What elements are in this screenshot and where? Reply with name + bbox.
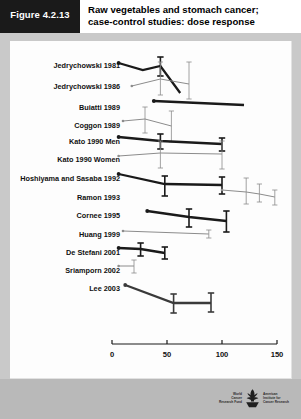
wcrf-line3: Research Fund xyxy=(212,400,242,404)
series-sriamporn-2002 xyxy=(117,260,136,273)
plot-area: Jedrychowski 1981Jedrychowski 1986Buiatt… xyxy=(10,41,301,388)
study-label: Hoshiyama and Sasaba 1992 xyxy=(20,174,120,183)
page-title-line2: case-control studies: dose response xyxy=(88,16,296,28)
study-label: Jedrychowski 1986 xyxy=(53,82,120,91)
study-label: Kato 1990 Men xyxy=(69,137,120,146)
series-coggon-1989 xyxy=(122,107,174,142)
series-ramon-1993 xyxy=(221,178,278,205)
series-cornee-1995 xyxy=(145,209,229,232)
study-label: Kato 1990 Women xyxy=(57,155,120,164)
study-label: Jedrychowski 1981 xyxy=(53,61,120,70)
study-label: Coggon 1989 xyxy=(74,121,120,130)
study-label: Ramon 1993 xyxy=(77,193,120,202)
figure-page: Figure 4.2.13 Raw vegetables and stomach… xyxy=(0,0,301,419)
series-huang-1999 xyxy=(122,230,212,238)
study-label: Lee 2003 xyxy=(89,284,120,293)
figure-footer: World Cancer Research Fund American Inst… xyxy=(0,379,301,419)
figure-number-label: Figure 4.2.13 xyxy=(0,9,80,20)
wcrf-aicr-globe-logo xyxy=(244,388,261,408)
series-de-stefani-2001 xyxy=(117,243,168,259)
study-label-column: Jedrychowski 1981Jedrychowski 1986Buiatt… xyxy=(10,41,120,388)
study-label: Sriamporn 2002 xyxy=(65,266,120,275)
wcrf-logo-text: World Cancer Research Fund xyxy=(212,392,242,404)
series-kato-1990-men xyxy=(117,134,226,151)
page-title-line1: Raw vegetables and stomach cancer; xyxy=(88,4,296,16)
organisation-logos: World Cancer Research Fund American Inst… xyxy=(212,387,293,409)
study-label: Cornee 1995 xyxy=(77,211,120,220)
page-title: Raw vegetables and stomach cancer; case-… xyxy=(88,4,296,28)
chart-panel: Jedrychowski 1981Jedrychowski 1986Buiatt… xyxy=(10,41,292,379)
study-label: Buiatti 1989 xyxy=(79,103,120,112)
series-lee-2003 xyxy=(123,283,214,313)
figure-header: Figure 4.2.13 Raw vegetables and stomach… xyxy=(0,0,301,33)
series-jedrychowski-1981 xyxy=(117,57,181,93)
aicr-line3: Cancer Research xyxy=(263,400,293,404)
series-buiatti-1989 xyxy=(152,99,244,105)
study-label: De Stefani 2001 xyxy=(66,248,120,257)
aicr-logo-text: American Institute for Cancer Research xyxy=(263,392,293,404)
study-label: Huang 1999 xyxy=(79,230,120,239)
series-kato-1990-women xyxy=(117,141,224,169)
series-hoshiyama-and-sasaba-1992 xyxy=(117,172,226,196)
